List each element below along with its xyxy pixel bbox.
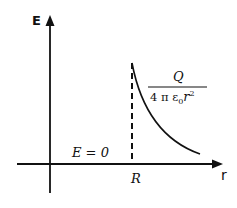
formula-denominator: 4 π ε0r2 bbox=[150, 89, 195, 106]
x-axis bbox=[17, 160, 223, 169]
field-diagram: E r Q 4 π ε0r2 E = 0 R bbox=[0, 0, 237, 208]
y-axis bbox=[46, 15, 55, 193]
field-formula: Q 4 π ε0r2 bbox=[148, 69, 207, 106]
radius-label: R bbox=[130, 171, 141, 186]
y-axis-arrow-icon bbox=[46, 15, 55, 26]
x-axis-label: r bbox=[221, 167, 227, 183]
inside-field-label: E = 0 bbox=[71, 145, 109, 160]
field-curve bbox=[132, 63, 200, 154]
y-axis-label: E bbox=[32, 13, 41, 28]
formula-numerator: Q bbox=[173, 69, 184, 84]
